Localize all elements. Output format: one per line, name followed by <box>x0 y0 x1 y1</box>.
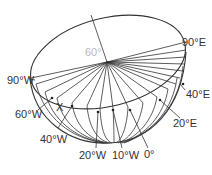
label-90w: 90°W <box>7 74 35 86</box>
hemisphere-outline <box>30 52 186 143</box>
label-10w: 10°W <box>112 149 140 161</box>
label-20e: 20°E <box>173 117 197 129</box>
label-60w: 60°W <box>15 108 43 120</box>
hemisphere-diagram: 60° 90°E 40°E 20°E 0° 10°W 20°W 40°W 60°… <box>0 0 212 175</box>
label-40e: 40°E <box>186 88 210 100</box>
label-40w: 40°W <box>40 133 68 145</box>
point-x-label: X <box>56 101 64 113</box>
hemisphere-figure: 60° 90°E 40°E 20°E 0° 10°W 20°W 40°W 60°… <box>0 0 212 175</box>
label-90e: 90°E <box>182 36 206 48</box>
label-20w: 20°W <box>79 149 107 161</box>
center-angle-label: 60° <box>85 46 102 58</box>
label-0: 0° <box>144 148 155 160</box>
